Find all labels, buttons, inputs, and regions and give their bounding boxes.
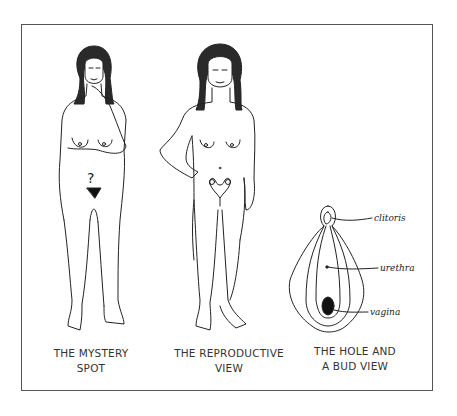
caption-mystery-spot: THE MYSTERY SPOT (36, 346, 146, 376)
caption-line: A BUD VIEW (300, 359, 410, 374)
caption-line: THE MYSTERY (36, 346, 146, 361)
caption-line: VIEW (164, 361, 294, 376)
figure-reproductive-view (160, 44, 255, 330)
vagina-shape (322, 297, 334, 315)
caption-reproductive-view: THE REPRODUCTIVE VIEW (164, 346, 294, 376)
caption-hole-and-bud-view: THE HOLE AND A BUD VIEW (300, 344, 410, 374)
figure-hole-and-bud-view (289, 206, 378, 332)
caption-line: THE REPRODUCTIVE (164, 346, 294, 361)
question-mark-icon: ? (87, 170, 94, 186)
caption-line: THE HOLE AND (300, 344, 410, 359)
label-clitoris: clitoris (374, 213, 406, 223)
label-vagina: vagina (370, 307, 400, 317)
figure-mystery-spot (59, 46, 126, 330)
label-urethra: urethra (380, 263, 415, 273)
caption-line: SPOT (36, 361, 146, 376)
